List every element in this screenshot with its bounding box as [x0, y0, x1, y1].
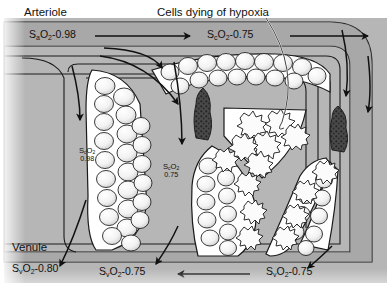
- edge-fade-bottom: [0, 258, 391, 301]
- label-sco2-mid: ScO20.75: [163, 163, 179, 179]
- edge-fade-left: [0, 0, 46, 301]
- label-svo2-left: SvO2-0.80: [12, 263, 58, 275]
- label-sao2-arterial: SaO2-0.98: [29, 29, 76, 41]
- label-arteriole: Arteriole: [24, 6, 67, 18]
- microcirculation-diagram: [0, 0, 391, 301]
- label-hypoxia-annotation: Cells dying of hypoxia: [157, 6, 269, 18]
- label-sco2-left: ScO20.98: [79, 147, 95, 163]
- label-sco2-top: ScO2-0.75: [207, 29, 253, 41]
- label-venule: Venule: [12, 241, 47, 253]
- label-svo2-mid: SvO2-0.75: [99, 266, 145, 278]
- label-svo2-right: SvO2-0.75: [266, 266, 312, 278]
- figure-canvas: Arteriole Cells dying of hypoxia SaO2-0.…: [0, 0, 391, 301]
